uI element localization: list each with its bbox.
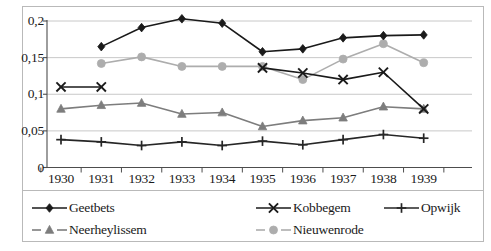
x-tick-label: 1933: [159, 172, 205, 186]
triangle-marker-icon: [31, 222, 69, 238]
y-tick-label: 0,2: [0, 14, 44, 28]
series-neerheylissem: [57, 98, 428, 129]
cross-x-marker-icon: [255, 200, 293, 216]
x-tick-label: 1936: [280, 172, 326, 186]
chart-screenshot: 00,050,10,150,2 193019311932193319341935…: [0, 0, 491, 251]
legend-label: Geetbets: [69, 201, 115, 215]
chart-legend: GeetbetsKobbegemOpwijkNeerheylissemNieuw…: [23, 190, 483, 241]
legend-label: Nieuwenrode: [293, 223, 364, 237]
y-tick-label: 0,15: [0, 51, 44, 65]
series-opwijk: [56, 130, 428, 151]
x-tick-label: 1932: [119, 172, 165, 186]
plus-marker-icon: [383, 200, 421, 216]
legend-item-kobbegem[interactable]: Kobbegem: [255, 197, 351, 218]
series-nieuwenrode: [97, 40, 427, 84]
y-tick-label: 0,05: [0, 124, 44, 138]
x-tick-label: 1937: [320, 172, 366, 186]
legend-item-neerheylissem[interactable]: Neerheylissem: [31, 219, 147, 240]
legend-label: Neerheylissem: [69, 223, 147, 237]
legend-item-opwijk[interactable]: Opwijk: [383, 197, 460, 218]
x-tick-label: 1935: [240, 172, 286, 186]
y-tick-label: 0,1: [0, 87, 44, 101]
series-line: [61, 103, 424, 126]
x-tick-label: 1939: [401, 172, 447, 186]
x-tick-label: 1931: [78, 172, 124, 186]
x-tick-label: 1938: [360, 172, 406, 186]
legend-item-geetbets[interactable]: Geetbets: [31, 197, 115, 218]
x-tick-label: 1930: [38, 172, 84, 186]
series-line: [61, 135, 424, 146]
x-tick-label: 1934: [199, 172, 245, 186]
legend-label: Kobbegem: [293, 201, 351, 215]
diamond-marker-icon: [31, 200, 69, 216]
legend-item-nieuwenrode[interactable]: Nieuwenrode: [255, 219, 364, 240]
series-kobbegem: [56, 63, 428, 113]
circle-marker-icon: [255, 222, 293, 238]
legend-label: Opwijk: [421, 201, 460, 215]
axes: [41, 20, 472, 173]
